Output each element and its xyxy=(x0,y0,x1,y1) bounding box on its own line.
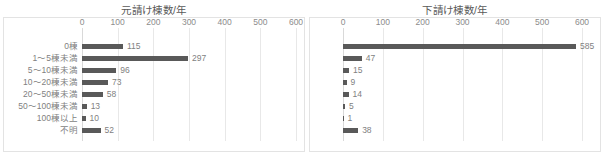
x-tick-label: 400 xyxy=(495,17,509,28)
gridline-600 xyxy=(296,28,297,141)
category-label: 不明 xyxy=(60,124,78,136)
bar-row: 0棟115 xyxy=(82,40,296,52)
bar xyxy=(82,56,188,61)
category-label: 100棟以上 xyxy=(37,112,78,124)
plot-area-shitauke: 0100200300400500600 58547159145138 xyxy=(343,28,582,141)
bar xyxy=(82,44,123,49)
chart-page: 元請け棟数/年 0100200300400500600 0棟1151〜5棟未満2… xyxy=(0,0,605,160)
bar-row: 47 xyxy=(343,52,582,64)
bar-value-label: 96 xyxy=(120,64,129,76)
bar-row: 100棟以上10 xyxy=(82,112,296,124)
category-label: 5〜10棟未満 xyxy=(28,64,78,76)
bar xyxy=(82,92,103,97)
bar-row: 15 xyxy=(343,64,582,76)
x-tick-label: 500 xyxy=(535,17,549,28)
x-tick-label: 100 xyxy=(111,17,125,28)
category-label: 20〜50棟未満 xyxy=(23,88,78,100)
bar xyxy=(343,104,345,109)
x-tick-label: 500 xyxy=(253,17,267,28)
bar-row: 14 xyxy=(343,88,582,100)
bar xyxy=(82,116,86,121)
bar xyxy=(343,80,347,85)
bar-value-label: 5 xyxy=(349,100,354,112)
x-tick-label: 400 xyxy=(218,17,232,28)
bar xyxy=(343,128,358,133)
bar-value-label: 10 xyxy=(90,112,99,124)
bar xyxy=(82,104,87,109)
bar-value-label: 297 xyxy=(192,52,206,64)
x-tick-label: 100 xyxy=(376,17,390,28)
x-tick-label: 0 xyxy=(341,17,346,28)
bar-value-label: 585 xyxy=(580,40,594,52)
x-tick-label: 600 xyxy=(575,17,589,28)
bar-value-label: 1 xyxy=(347,112,352,124)
bar-value-label: 52 xyxy=(105,124,114,136)
bar-rows-shitauke: 58547159145138 xyxy=(343,40,582,136)
bar xyxy=(343,56,362,61)
bar-row: 1 xyxy=(343,112,582,124)
bar-row: 38 xyxy=(343,124,582,136)
bar xyxy=(343,92,349,97)
x-axis-ticklabels-motouke: 0100200300400500600 xyxy=(82,17,296,28)
bar-row: 585 xyxy=(343,40,582,52)
x-axis-ticklabels-shitauke: 0100200300400500600 xyxy=(343,17,582,28)
category-label: 50〜100棟未満 xyxy=(18,100,78,112)
bar-row: 50〜100棟未満13 xyxy=(82,100,296,112)
bar-value-label: 13 xyxy=(91,100,100,112)
plot-area-motouke: 0100200300400500600 0棟1151〜5棟未満2975〜10棟未… xyxy=(82,28,296,141)
bar-value-label: 38 xyxy=(362,124,371,136)
bar-row: 不明52 xyxy=(82,124,296,136)
bar xyxy=(82,80,108,85)
bar-value-label: 47 xyxy=(366,52,375,64)
chart-title-shitauke: 下請け棟数/年 xyxy=(310,2,600,17)
bar xyxy=(82,128,101,133)
bar-value-label: 58 xyxy=(107,88,116,100)
bar xyxy=(82,68,116,73)
bar-row: 9 xyxy=(343,76,582,88)
chart-motouke: 元請け棟数/年 0100200300400500600 0棟1151〜5棟未満2… xyxy=(3,17,305,152)
bar-value-label: 14 xyxy=(353,88,362,100)
bar-row: 10〜20棟未満73 xyxy=(82,76,296,88)
bar-value-label: 115 xyxy=(127,40,141,52)
bar-row: 5〜10棟未満96 xyxy=(82,64,296,76)
bar-row: 5 xyxy=(343,100,582,112)
chart-title-motouke: 元請け棟数/年 xyxy=(4,2,304,17)
chart-shitauke: 下請け棟数/年 0100200300400500600 585471591451… xyxy=(309,17,601,152)
bar-row: 1〜5棟未満297 xyxy=(82,52,296,64)
bar xyxy=(343,44,576,49)
x-tick-label: 0 xyxy=(80,17,85,28)
category-label: 0棟 xyxy=(64,40,78,52)
x-tick-label: 200 xyxy=(146,17,160,28)
x-tick-label: 300 xyxy=(455,17,469,28)
category-label: 10〜20棟未満 xyxy=(23,76,78,88)
x-tick-label: 600 xyxy=(289,17,303,28)
bar-row: 20〜50棟未満58 xyxy=(82,88,296,100)
bar-value-label: 15 xyxy=(353,64,362,76)
bar-value-label: 73 xyxy=(112,76,121,88)
bar xyxy=(343,68,349,73)
x-tick-label: 300 xyxy=(182,17,196,28)
bar-value-label: 9 xyxy=(351,76,356,88)
category-label: 1〜5棟未満 xyxy=(33,52,78,64)
bar-rows-motouke: 0棟1151〜5棟未満2975〜10棟未満9610〜20棟未満7320〜50棟未… xyxy=(82,40,296,136)
x-tick-label: 200 xyxy=(416,17,430,28)
